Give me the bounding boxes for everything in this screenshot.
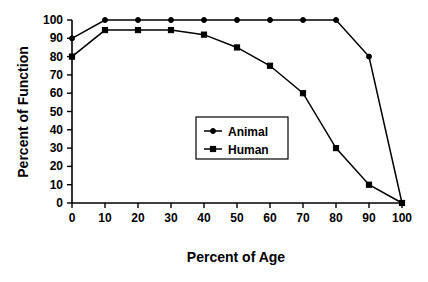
data-point-human-0 [69,54,74,59]
data-point-animal-30 [169,18,174,23]
data-point-human-60 [267,63,272,68]
chart-container: Percent of Function Percent of Age 01020… [0,0,428,282]
legend-marker-animal [211,129,216,134]
data-point-human-50 [234,45,239,50]
data-point-animal-0 [70,36,75,41]
y-tick-label: 100 [43,13,63,27]
data-point-human-40 [201,32,206,37]
data-point-animal-20 [136,18,141,23]
data-point-animal-60 [268,18,273,23]
data-point-animal-80 [334,18,339,23]
data-point-human-30 [168,27,173,32]
data-point-animal-10 [103,18,108,23]
x-tick-label: 60 [263,211,277,225]
legend-marker-human [210,146,215,151]
data-point-animal-40 [202,18,207,23]
x-tick-label: 90 [362,211,376,225]
y-tick-label: 40 [50,123,64,137]
y-tick-label: 80 [50,50,64,64]
legend-label-animal: Animal [228,125,268,139]
x-tick-label: 50 [230,211,244,225]
x-tick-label: 40 [197,211,211,225]
y-tick-label: 60 [50,86,64,100]
x-tick-label: 70 [296,211,310,225]
y-tick-label: 90 [50,31,64,45]
x-tick-label: 10 [98,211,112,225]
data-point-human-80 [333,146,338,151]
x-tick-label: 80 [329,211,343,225]
data-point-human-10 [102,27,107,32]
data-point-human-100 [399,200,404,205]
y-tick-label: 30 [50,141,64,155]
x-tick-label: 100 [392,211,412,225]
x-tick-label: 20 [131,211,145,225]
line-chart: Percent of Function Percent of Age 01020… [0,0,428,282]
x-tick-label: 30 [164,211,178,225]
legend-label-human: Human [228,143,269,157]
x-axis-title: Percent of Age [187,249,285,265]
data-point-human-90 [366,182,371,187]
data-point-human-20 [135,27,140,32]
y-tick-label: 20 [50,159,64,173]
data-point-animal-50 [235,18,240,23]
x-tick-label: 0 [69,211,76,225]
y-tick-label: 0 [56,196,63,210]
data-point-human-70 [300,91,305,96]
chart-legend: AnimalHuman [196,117,288,159]
y-tick-label: 50 [50,105,64,119]
data-point-animal-70 [301,18,306,23]
data-point-animal-90 [367,54,372,59]
y-axis-title: Percent of Function [15,46,31,177]
y-tick-label: 10 [50,178,64,192]
y-tick-label: 70 [50,68,64,82]
